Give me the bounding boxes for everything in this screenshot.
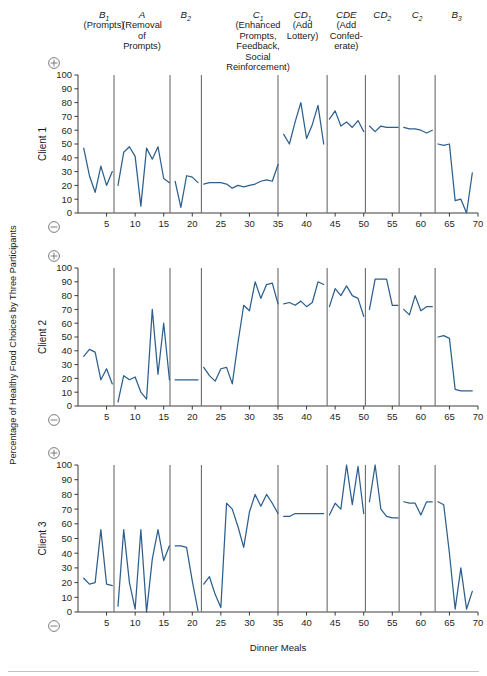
phase-desc-CDE-0: (Add [336,20,356,30]
x-tick-label: 40 [301,617,312,628]
panel-label-3: Client 3 [37,521,48,555]
data-line-client-3-CD1 [284,514,324,517]
y-tick-label: 0 [67,606,72,617]
panel-label-2: Client 2 [37,320,48,354]
panel-2: 0102030405060708090100510152025303540455… [37,251,483,426]
data-line-client-3-C2 [404,502,433,515]
plus-valence-symbol [49,58,60,69]
x-tick-label: 25 [216,218,227,229]
y-tick-label: 60 [61,125,72,136]
data-line-client-2-C2 [404,296,433,315]
x-tick-label: 70 [473,617,484,628]
phase-header-B3: B3 [451,9,462,22]
data-line-client-3-B1 [84,530,113,586]
y-axis-title: Percentage of Healthy Food Choices by Th… [8,225,18,465]
data-line-client-1-A [118,147,169,206]
phase-header-C1: C1(EnhancedPrompts,Feedback,SocialReinfo… [226,9,290,72]
y-tick-label: 60 [61,518,72,529]
phase-header-B1: B1(Prompts) [84,9,125,30]
y-tick-label: 10 [61,387,72,398]
x-tick-label: 35 [273,218,284,229]
x-axis-title: Dinner Meals [250,642,307,653]
x-tick-label: 35 [273,617,284,628]
y-tick-label: 30 [61,562,72,573]
x-tick-label: 20 [187,617,198,628]
y-tick-label: 10 [61,592,72,603]
y-tick-label: 40 [61,152,72,163]
x-tick-label: 70 [473,218,484,229]
x-tick-label: 60 [416,617,427,628]
caption-divider-rule [8,671,479,672]
y-tick-label: 80 [61,489,72,500]
x-tick-label: 10 [130,411,141,422]
x-tick-label: 60 [416,411,427,422]
y-tick-label: 90 [61,276,72,287]
phase-header-C2: C2 [412,9,423,22]
x-tick-label: 45 [330,617,341,628]
minus-valence-symbol [49,415,60,426]
x-tick-label: 20 [187,411,198,422]
x-tick-label: 15 [158,617,169,628]
data-line-client-3-B2 [175,546,198,611]
x-tick-label: 10 [130,218,141,229]
y-tick-label: 40 [61,548,72,559]
data-line-client-3-C1 [204,494,278,607]
data-line-client-2-C1 [204,282,278,384]
x-tick-label: 65 [444,411,455,422]
y-tick-label: 20 [61,373,72,384]
data-line-client-1-CDE [329,111,363,132]
y-tick-label: 10 [61,194,72,205]
data-line-client-2-A [118,309,169,401]
phase-label-B3: B3 [451,9,462,22]
phase-desc-C1-4: Reinforcement) [226,62,290,72]
x-tick-label: 25 [216,617,227,628]
panel-3: 0102030405060708090100510152025303540455… [37,448,483,632]
x-tick-label: 55 [387,218,398,229]
phase-desc-A-2: Prompts) [123,41,161,51]
y-tick-label: 80 [61,97,72,108]
data-line-client-1-C2 [404,127,433,133]
y-tick-label: 70 [61,304,72,315]
x-tick-label: 30 [244,411,255,422]
phase-desc-C1-3: Social [245,52,270,62]
x-tick-label: 40 [301,411,312,422]
y-tick-label: 0 [67,207,72,218]
data-line-client-2-CD2 [369,279,398,309]
phase-label-A: A [138,9,146,20]
x-tick-label: 5 [104,617,109,628]
x-tick-label: 50 [358,617,369,628]
data-line-client-2-CD1 [284,282,324,307]
y-tick-label: 20 [61,180,72,191]
plus-valence-symbol [49,251,60,262]
x-tick-label: 50 [358,411,369,422]
phase-desc-CD1-1: Lottery) [287,31,319,41]
data-line-client-1-B1 [84,148,113,192]
y-tick-label: 40 [61,345,72,356]
x-tick-label: 15 [158,411,169,422]
figure-container: B1(Prompts)A(RemovalofPrompts)B2C1(Enhan… [0,0,487,676]
plus-valence-symbol [49,448,60,459]
data-line-client-1-CD2 [369,126,398,132]
data-line-client-1-B2 [175,176,198,208]
x-tick-label: 45 [330,411,341,422]
phase-label-B2: B2 [181,9,192,22]
panel-1: 0102030405060708090100510152025303540455… [37,58,483,233]
y-tick-label: 100 [56,69,72,80]
y-tick-label: 30 [61,166,72,177]
panel-label-1: Client 1 [37,127,48,161]
data-line-client-1-CD1 [284,103,324,144]
x-tick-label: 50 [358,218,369,229]
data-line-client-3-A [118,530,169,612]
phase-desc-CDE-1: Confed- [330,31,363,41]
x-tick-label: 20 [187,218,198,229]
minus-valence-symbol [49,621,60,632]
phase-desc-A-0: (Removal [122,20,162,30]
data-line-client-2-B3 [438,336,472,391]
phase-header-CDE: CDE(AddConfed-erate) [330,9,363,51]
phase-desc-C1-1: Prompts, [239,31,276,41]
phase-header-B2: B2 [181,9,192,22]
y-tick-label: 100 [56,459,72,470]
phase-desc-CD1-0: (Add [293,20,313,30]
y-tick-label: 50 [61,533,72,544]
phase-desc-C1-2: Feedback, [236,41,279,51]
